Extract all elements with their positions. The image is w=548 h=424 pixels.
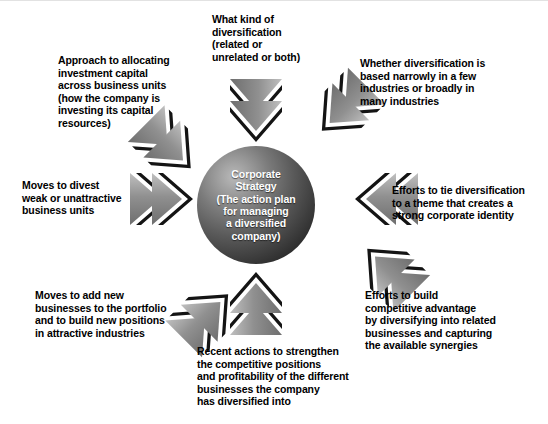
label-add-new-businesses: Moves to add new businesses to the portf… bbox=[35, 289, 187, 339]
label-kind-of-diversification: What kind of diversification (related or… bbox=[212, 13, 342, 63]
label-breadth-of-diversification: Whether diversification is based narrowl… bbox=[360, 57, 530, 107]
label-strengthen-competitive-positions: Recent actions to strengthen the competi… bbox=[197, 345, 377, 408]
diagram-canvas: Corporate Strategy (The action plan for … bbox=[0, 0, 548, 424]
label-tie-diversification-to-theme: Efforts to tie diversification to a them… bbox=[392, 184, 548, 222]
corporate-strategy-text: Corporate Strategy (The action plan for … bbox=[217, 168, 296, 242]
corporate-strategy-sphere: Corporate Strategy (The action plan for … bbox=[197, 146, 315, 264]
label-divest-weak-units: Moves to divest weak or unattractive bus… bbox=[22, 179, 152, 217]
arrow-from-bottom bbox=[230, 272, 282, 335]
arrow-from-top bbox=[230, 79, 282, 142]
label-investment-capital-allocation: Approach to allocating investment capita… bbox=[58, 54, 210, 130]
label-build-competitive-advantage: Efforts to build competitive advantage b… bbox=[365, 289, 529, 352]
